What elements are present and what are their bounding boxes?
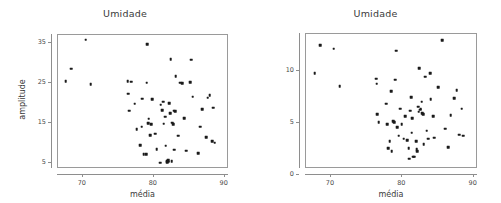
y-tick bbox=[296, 70, 299, 71]
data-point bbox=[409, 110, 412, 113]
y-axis-title-left: amplitude bbox=[18, 78, 27, 122]
x-tick bbox=[153, 174, 154, 177]
data-point bbox=[209, 94, 212, 97]
data-point bbox=[462, 134, 465, 137]
data-point bbox=[65, 80, 68, 83]
y-tick bbox=[48, 82, 51, 83]
data-point bbox=[460, 107, 463, 110]
data-point bbox=[413, 155, 416, 158]
data-point bbox=[429, 72, 432, 75]
data-point bbox=[197, 152, 200, 155]
data-point bbox=[375, 77, 378, 80]
data-point bbox=[424, 75, 427, 78]
data-point bbox=[407, 147, 410, 150]
data-point bbox=[453, 97, 456, 100]
y-tick bbox=[48, 122, 51, 123]
plot-area-right bbox=[305, 33, 477, 168]
data-point bbox=[201, 108, 204, 111]
data-point bbox=[199, 125, 202, 128]
data-point bbox=[181, 82, 184, 85]
data-point bbox=[148, 117, 151, 120]
data-point bbox=[149, 134, 152, 137]
x-tick-label: 80 bbox=[149, 179, 157, 187]
data-point bbox=[172, 123, 175, 126]
y-tick bbox=[296, 174, 299, 175]
data-point bbox=[70, 68, 73, 71]
data-point bbox=[177, 135, 180, 138]
y-tick bbox=[296, 122, 299, 123]
data-point bbox=[386, 123, 389, 126]
y-axis-line bbox=[299, 33, 300, 168]
panel-title-right: Umidade bbox=[250, 8, 501, 19]
data-point bbox=[159, 161, 162, 164]
data-point bbox=[128, 109, 131, 112]
data-point bbox=[376, 113, 379, 116]
data-point bbox=[135, 128, 138, 131]
y-tick-label: 0 bbox=[277, 170, 294, 178]
data-point bbox=[444, 127, 447, 130]
data-point bbox=[161, 109, 164, 112]
data-point bbox=[402, 138, 405, 141]
x-tick-label: 70 bbox=[326, 179, 334, 187]
x-axis-title-left: média bbox=[130, 190, 155, 199]
y-axis-line bbox=[51, 34, 52, 168]
data-point bbox=[89, 83, 92, 86]
data-point bbox=[126, 80, 129, 83]
data-point bbox=[145, 153, 148, 156]
data-point bbox=[183, 117, 186, 120]
data-point bbox=[404, 115, 407, 118]
data-point bbox=[127, 92, 130, 95]
x-tick-label: 80 bbox=[397, 179, 405, 187]
x-tick-label: 70 bbox=[78, 179, 86, 187]
data-point bbox=[393, 121, 396, 124]
y-tick bbox=[48, 42, 51, 43]
data-point bbox=[427, 138, 430, 141]
data-point bbox=[437, 86, 440, 89]
data-point bbox=[396, 126, 399, 129]
data-point bbox=[420, 107, 423, 110]
data-point bbox=[190, 58, 193, 61]
data-point bbox=[450, 114, 453, 117]
data-point bbox=[154, 132, 157, 135]
x-tick-label: 90 bbox=[469, 179, 477, 187]
data-point bbox=[205, 136, 208, 139]
plot-area-left bbox=[57, 34, 228, 168]
data-point bbox=[338, 85, 341, 88]
data-point bbox=[160, 103, 163, 106]
data-point bbox=[174, 75, 177, 78]
data-point bbox=[206, 96, 209, 99]
data-point bbox=[214, 141, 217, 144]
data-points-right bbox=[306, 34, 476, 167]
data-point bbox=[212, 106, 215, 109]
data-point bbox=[432, 115, 435, 118]
data-point bbox=[189, 81, 192, 84]
data-point bbox=[140, 125, 143, 128]
data-point bbox=[162, 122, 165, 125]
data-point bbox=[173, 149, 176, 152]
data-point bbox=[130, 80, 133, 83]
data-point bbox=[139, 144, 142, 147]
x-tick bbox=[82, 174, 83, 177]
data-point bbox=[133, 102, 136, 105]
data-point bbox=[395, 49, 398, 52]
data-point bbox=[390, 150, 393, 153]
data-point bbox=[155, 148, 158, 151]
data-point bbox=[433, 137, 436, 140]
data-point bbox=[458, 133, 461, 136]
data-points-left bbox=[58, 35, 227, 167]
data-point bbox=[165, 145, 168, 148]
y-tick-label: 15 bbox=[29, 118, 46, 126]
data-point bbox=[319, 44, 322, 47]
data-point bbox=[166, 161, 169, 164]
data-point bbox=[141, 98, 144, 101]
data-point bbox=[400, 123, 403, 126]
data-point bbox=[447, 146, 450, 149]
figure-container: Umidade 7080905152535 média amplitude Um… bbox=[0, 0, 501, 203]
data-point bbox=[313, 72, 316, 75]
data-point bbox=[415, 140, 418, 143]
data-point bbox=[399, 107, 402, 110]
data-point bbox=[422, 143, 425, 146]
data-point bbox=[422, 113, 425, 116]
data-point bbox=[416, 150, 419, 153]
data-point bbox=[387, 147, 390, 150]
